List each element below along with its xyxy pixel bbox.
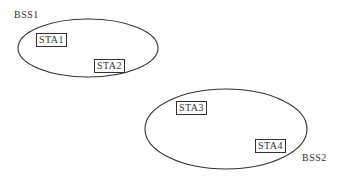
bss2-ellipse xyxy=(145,89,307,169)
station-sta4: STA4 xyxy=(255,139,286,153)
bss1-ellipse xyxy=(18,19,158,77)
station-sta1: STA1 xyxy=(36,33,67,47)
diagram-canvas xyxy=(0,0,341,180)
bss1-label: BSS1 xyxy=(14,9,39,20)
station-sta2: STA2 xyxy=(94,59,125,73)
station-sta3: STA3 xyxy=(176,101,207,115)
bss2-label: BSS2 xyxy=(302,152,327,163)
